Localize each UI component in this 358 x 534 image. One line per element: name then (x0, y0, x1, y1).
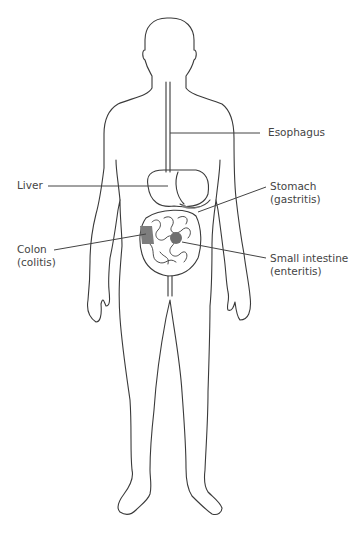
rectum (168, 276, 172, 296)
right-arm-inner (216, 160, 220, 200)
label-esophagus: Esophagus (268, 126, 325, 139)
label-small-intestine: Small intestine (enteritis) (270, 252, 348, 278)
liver (148, 170, 209, 207)
small-intestine-highlight (170, 232, 182, 244)
label-liver: Liver (17, 179, 43, 192)
label-stomach: Stomach (gastritis) (270, 180, 321, 206)
label-colon: Colon (colitis) (17, 243, 56, 269)
left-arm-inner (116, 160, 120, 200)
body-outline (87, 18, 250, 515)
esophagus (166, 82, 170, 172)
small-intestine-coils (150, 216, 190, 264)
colon-leader (54, 234, 146, 250)
